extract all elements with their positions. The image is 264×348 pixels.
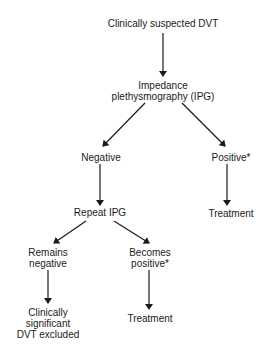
node-label-line: DVT excluded bbox=[17, 329, 80, 340]
node-start: Clinically suspected DVT bbox=[108, 18, 219, 29]
node-label-line: significant bbox=[17, 318, 80, 329]
node-treatment2: Treatment bbox=[127, 313, 172, 324]
node-label-line: Clinically suspected DVT bbox=[108, 18, 219, 29]
arrow-ipg-to-negative bbox=[103, 103, 145, 146]
node-repeat: Repeat IPG bbox=[74, 207, 126, 218]
node-remains: Remainsnegative bbox=[28, 247, 67, 269]
node-label-line: Treatment bbox=[208, 208, 253, 219]
node-becomes: Becomespositive* bbox=[129, 247, 171, 269]
node-label-line: Clinically bbox=[17, 307, 80, 318]
node-negative: Negative bbox=[81, 152, 120, 163]
node-label-line: Treatment bbox=[127, 313, 172, 324]
arrow-repeat-to-remains bbox=[54, 221, 86, 243]
node-label-line: negative bbox=[28, 258, 67, 269]
node-label-line: positive* bbox=[129, 258, 171, 269]
flowchart-edges bbox=[0, 0, 264, 348]
arrow-ipg-to-positive bbox=[182, 103, 225, 146]
node-treatment1: Treatment bbox=[208, 208, 253, 219]
node-positive: Positive* bbox=[212, 152, 251, 163]
node-label-line: Becomes bbox=[129, 247, 171, 258]
node-excluded: ClinicallysignificantDVT excluded bbox=[17, 307, 80, 340]
node-label-line: Positive* bbox=[212, 152, 251, 163]
arrow-repeat-to-becomes bbox=[114, 221, 149, 243]
node-label-line: Impedance bbox=[112, 80, 215, 91]
node-label-line: Remains bbox=[28, 247, 67, 258]
node-label-line: Negative bbox=[81, 152, 120, 163]
node-label-line: Repeat IPG bbox=[74, 207, 126, 218]
node-label-line: plethysmography (IPG) bbox=[112, 91, 215, 102]
node-ipg: Impedanceplethysmography (IPG) bbox=[112, 80, 215, 102]
